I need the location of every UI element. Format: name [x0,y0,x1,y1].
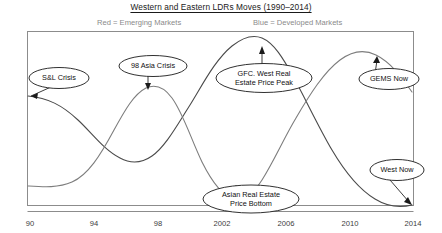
plot-area [0,0,442,233]
xtick-label-5: 2010 [342,219,359,228]
callout-ellipse-asian-bottom [203,185,299,213]
xtick-label-2: 98 [154,219,162,228]
leader-arrow-gfc [259,46,265,54]
leader-line-west-now [390,180,409,202]
xtick-label-4: 2006 [278,219,295,228]
callout-ellipse-gfc [216,64,312,93]
xtick-label-3: 2002 [214,219,231,228]
series-line-emerging-markets [28,36,412,206]
callout-ellipse-west-now [370,160,424,181]
xtick-label-6: 2014 [405,219,422,228]
callout-ellipse-98-asia-crisis [119,56,187,77]
chart-page: Western and Eastern LDRs Moves (1990–201… [0,0,442,233]
callout-ellipse-gems-now [359,69,419,90]
callout-ellipse-sl-crisis [29,68,89,89]
xtick-label-0: 90 [26,219,34,228]
leader-arrow-sl-crisis [31,93,38,99]
xtick-label-1: 94 [90,219,98,228]
